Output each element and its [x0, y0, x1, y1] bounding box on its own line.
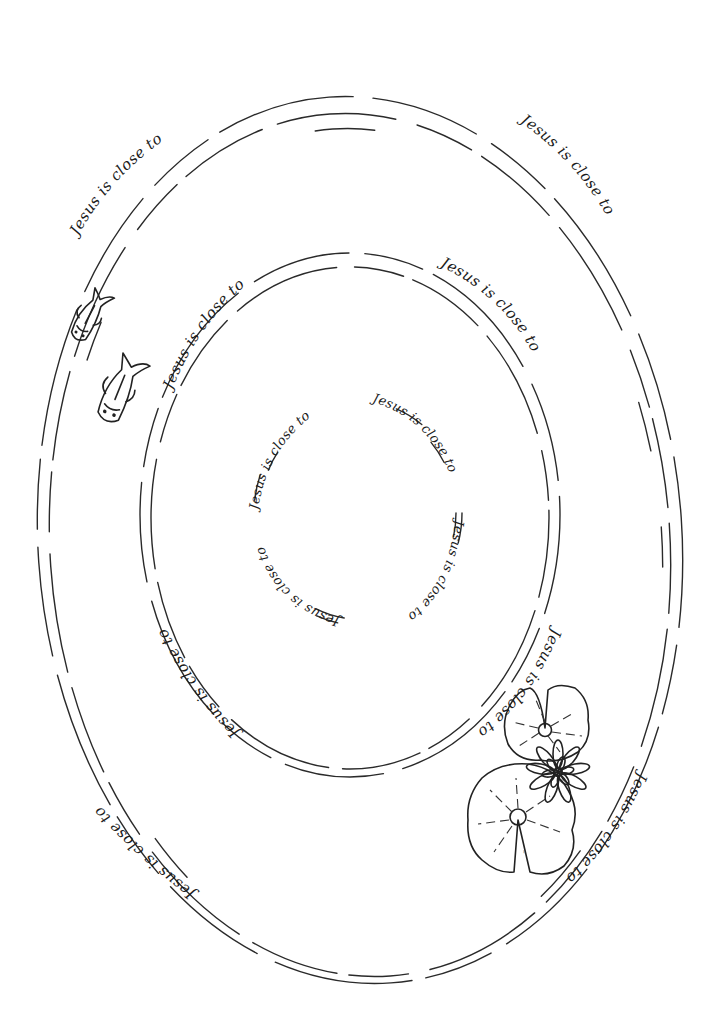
middle-ring-labels: Jesus is close to Jesus is close to Jesu…	[153, 252, 566, 744]
label-middle-top-left: Jesus is close to	[158, 275, 248, 395]
fish-icon	[91, 350, 151, 428]
label-inner-top-left: Jesus is close to	[246, 408, 313, 514]
label-middle-bottom-left: Jesus is close to	[153, 626, 245, 745]
pond-drawing: Jesus is close to Jesus is close to Jesu…	[0, 0, 722, 1029]
fish-icon	[65, 285, 114, 346]
label-inner-bottom-right: Jesus is close to	[405, 517, 467, 625]
coloring-page: Jesus is close to Jesus is close to Jesu…	[0, 0, 722, 1029]
artist-signature: ~	[521, 849, 528, 854]
inner-ring-labels: Jesus is close to Jesus is close to Jesu…	[246, 390, 468, 631]
label-outer-top-right: Jesus is close to	[515, 109, 619, 218]
label-outer-bottom-right: Jesus is close to	[562, 768, 652, 888]
label-inner-top-right: Jesus is close to	[368, 390, 460, 475]
label-outer-bottom-left: Jesus is close to	[90, 803, 201, 905]
label-outer-top-left: Jesus is close to	[64, 129, 165, 240]
label-inner-bottom-left: Jesus is close to	[252, 545, 343, 630]
outer-ring-labels: Jesus is close to Jesus is close to Jesu…	[64, 109, 652, 905]
